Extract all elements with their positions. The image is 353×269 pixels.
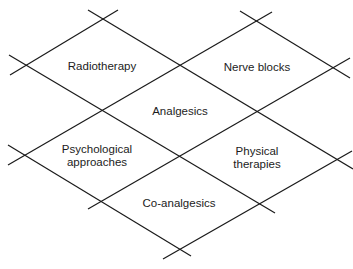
diamond-grid <box>0 0 353 269</box>
cell-label-line-2: approaches <box>62 156 132 169</box>
cell-psychological-approaches: Psychological approaches <box>62 143 132 169</box>
cell-physical-therapies: Physical therapies <box>233 145 280 171</box>
cell-label-line-2: therapies <box>233 158 280 171</box>
cell-label: Nerve blocks <box>224 61 290 73</box>
cell-nerve-blocks: Nerve blocks <box>224 61 290 74</box>
cell-label-line-1: Psychological <box>62 143 132 156</box>
cell-label-line-1: Physical <box>233 145 280 158</box>
cell-label: Radiotherapy <box>68 60 136 72</box>
cell-label: Co-analgesics <box>143 197 216 209</box>
cell-co-analgesics: Co-analgesics <box>143 197 216 210</box>
grid-line-dl-3 <box>88 58 350 209</box>
cell-label: Analgesics <box>152 105 208 117</box>
cell-radiotherapy: Radiotherapy <box>68 60 136 73</box>
cell-analgesics: Analgesics <box>152 105 208 118</box>
grid-line-dl-2 <box>8 12 272 165</box>
grid-line-dr-1 <box>9 55 275 213</box>
